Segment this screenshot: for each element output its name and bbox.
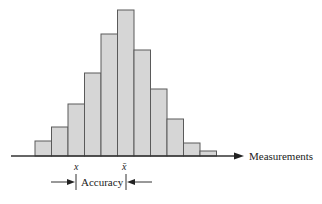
histogram-bar [35,141,52,156]
xbar-label: x̄ [121,161,127,172]
accuracy-left-arrow-icon [67,179,75,185]
histogram-bar [184,143,201,156]
x-label: x [73,161,79,172]
histogram-bar [151,89,168,156]
histogram-bar [85,73,102,156]
x-axis-label: Measurements [249,150,313,162]
histogram-bars [35,10,217,156]
histogram-bar [68,104,85,156]
histogram-bar [134,50,151,156]
x-axis-arrowhead-icon [234,153,244,160]
histogram-bar [167,119,184,156]
histogram-chart: Measurements x x̄ Accuracy [0,0,322,204]
accuracy-label: Accuracy [81,176,124,188]
histogram-bar [52,127,69,156]
histogram-bar [200,151,217,156]
histogram-bar [118,10,135,156]
histogram-bar [101,34,118,156]
accuracy-right-arrow-icon [127,179,135,185]
